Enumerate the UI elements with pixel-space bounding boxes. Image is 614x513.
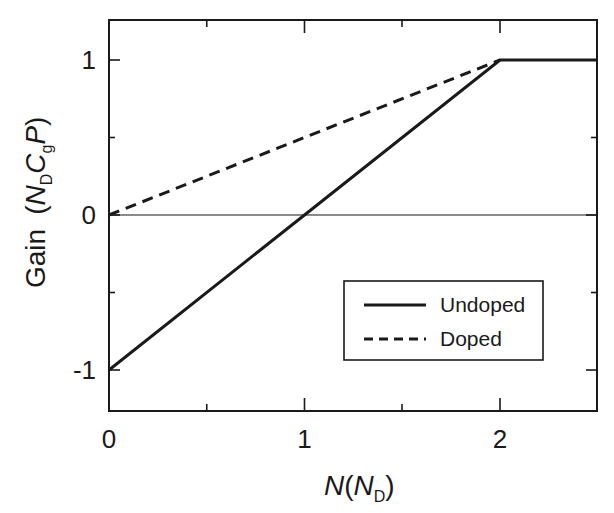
legend: Undoped Doped	[344, 281, 543, 360]
x-axis-label: N(ND)	[324, 470, 395, 505]
legend-label-undoped: Undoped	[440, 293, 525, 316]
x-tick-label-1: 1	[297, 424, 311, 454]
x-tick-label-0: 0	[102, 424, 116, 454]
y-tick-label-minus-1: -1	[73, 355, 96, 385]
y-axis-label: Gain(NDCgP)	[20, 117, 55, 288]
y-tick-label-1: 1	[82, 45, 96, 75]
legend-label-doped: Doped	[440, 327, 502, 350]
y-tick-label-0: 0	[82, 200, 96, 230]
series-doped-line	[109, 60, 500, 215]
gain-chart: 0 1 2 1 0 -1 N(ND) Gain(NDCgP) Undoped D…	[0, 0, 614, 513]
x-tick-label-2: 2	[493, 424, 507, 454]
